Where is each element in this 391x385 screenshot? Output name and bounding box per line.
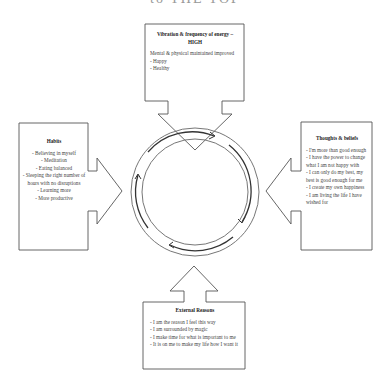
- inner-ring: [142, 139, 248, 245]
- top-box-text: Vibration & frequency of energy – HIGH M…: [150, 31, 240, 73]
- bottom-box-text: External Reasons - I am the reason I fee…: [150, 307, 240, 349]
- right-box-title: Thoughts & beliefs: [306, 135, 368, 143]
- right-box-item: - I create my own happiness: [306, 184, 368, 192]
- top-box-item: - Healthy: [150, 65, 240, 73]
- right-box-item: - I am living the life I have wished for: [306, 192, 368, 207]
- bottom-box-item: - It is on me to make my life how I want…: [150, 341, 240, 349]
- bottom-box-item: - I am surrounded by magic: [150, 326, 240, 334]
- bottom-box-title: External Reasons: [150, 307, 240, 315]
- right-box-text: Thoughts & beliefs - I'm more than good …: [306, 135, 368, 207]
- bottom-box-item: - I make time for what is important to m…: [150, 334, 240, 342]
- right-box-item: - I'm more than good enough: [306, 147, 368, 155]
- left-box-text: Habits - Believing in myself - Meditatio…: [22, 138, 86, 202]
- top-box-title: Vibration & frequency of energy – HIGH: [150, 31, 240, 46]
- right-box-item: - I have the power to change what I am n…: [306, 154, 368, 169]
- top-box-item: - Happy: [150, 58, 240, 66]
- left-box-item: - Believing in myself: [22, 150, 86, 158]
- left-box-item: - Eating balanced: [22, 165, 86, 173]
- top-box-intro: Mental & physical maintained improved: [150, 50, 240, 58]
- right-box-item: - I can only do my best, my best is good…: [306, 169, 368, 184]
- left-box-title: Habits: [22, 138, 86, 146]
- left-box-item: - Learning more: [22, 187, 86, 195]
- bottom-box-item: - I am the reason I feel this way: [150, 319, 240, 327]
- cycle-arrow-bottom: [170, 237, 233, 251]
- cycle-arrows: [136, 132, 252, 251]
- left-box-item: - More productive: [22, 195, 86, 203]
- cycle-arrowheads: [135, 132, 245, 248]
- left-box-item: - Sleeping the right number of hours wit…: [22, 172, 86, 187]
- left-box-item: - Meditation: [22, 157, 86, 165]
